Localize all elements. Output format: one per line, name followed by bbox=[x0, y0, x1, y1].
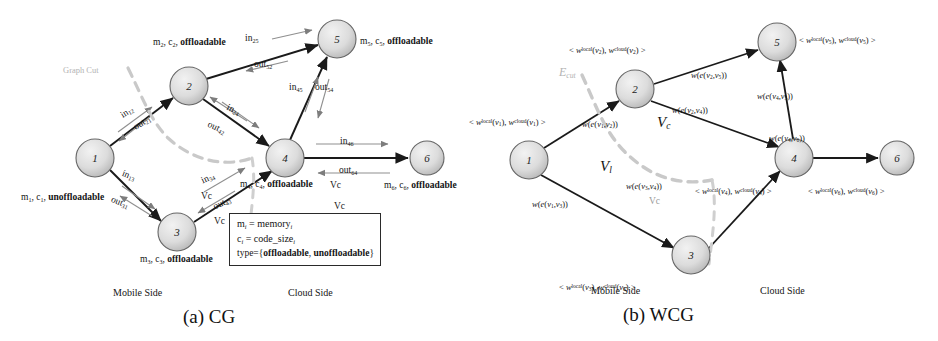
node-1-attributes: m1, c1, unoffloadable bbox=[21, 193, 104, 203]
panel-wcg: 1 2 3 4 5 bbox=[469, 0, 938, 341]
node-1-label: 1 bbox=[526, 154, 532, 166]
ecut-sub: cut bbox=[566, 71, 575, 80]
edge-3-4 bbox=[709, 171, 780, 248]
node-2-attributes: m2, c2, offloadable bbox=[153, 38, 226, 48]
cg-cloud-side-label: Cloud Side bbox=[288, 287, 333, 298]
region-vl-base: V bbox=[600, 158, 609, 174]
wcg-graph-svg: 1 2 3 4 5 bbox=[469, 0, 938, 341]
node-5[interactable]: 5 bbox=[758, 23, 796, 61]
vc-marker-2: Vc bbox=[214, 216, 225, 226]
vc-marker-4: Vc bbox=[334, 201, 345, 211]
panel-cg: 1 2 3 4 5 bbox=[0, 0, 469, 341]
region-vc-sub: c bbox=[666, 120, 670, 131]
cg-legend-box: mi = memoryi ci = code_sizei type={offlo… bbox=[229, 213, 381, 266]
cg-caption: (a) CG bbox=[183, 306, 235, 328]
region-label-vl: Vl bbox=[600, 159, 612, 175]
node-4[interactable]: 4 bbox=[775, 139, 813, 177]
node-2-label: 2 bbox=[632, 83, 638, 95]
node-1[interactable]: 1 bbox=[510, 141, 548, 179]
node-1-weight-label: < wlocal(v1), wcloud(v1) > bbox=[469, 118, 545, 128]
ecut-label: Ecut bbox=[559, 66, 576, 80]
flow-arrow-in25 bbox=[272, 30, 312, 39]
node-3[interactable]: 3 bbox=[158, 213, 196, 251]
edge-weight-v3-v4: w(e(v3,v4)) bbox=[626, 182, 662, 192]
edge-label-in45: in45 bbox=[289, 83, 302, 93]
node-2[interactable]: 2 bbox=[616, 70, 654, 108]
edge-weight-v2-v4: w(e(v2,v4)) bbox=[672, 106, 708, 116]
node-1[interactable]: 1 bbox=[76, 139, 114, 177]
node-4-label: 4 bbox=[282, 152, 288, 164]
cg-mobile-side-label: Mobile Side bbox=[113, 287, 162, 298]
wcg-vc-marker: Vc bbox=[649, 196, 660, 206]
figure-container: 1 2 3 4 5 bbox=[0, 0, 938, 341]
node-1-label: 1 bbox=[92, 152, 98, 164]
node-6-attributes: m6, c6, offloadable bbox=[384, 181, 457, 191]
node-3-label: 3 bbox=[687, 249, 694, 261]
edge-label-in25: in25 bbox=[245, 34, 258, 44]
node-6[interactable]: 6 bbox=[410, 141, 444, 175]
legend-line-type: type={offloadable, unoffloadable} bbox=[237, 246, 374, 261]
node-2-label: 2 bbox=[186, 80, 192, 92]
legend-line-memory: mi = memoryi bbox=[237, 217, 374, 232]
edge-label-out54: out54 bbox=[315, 83, 333, 93]
edge-weight-v4-v5: w(e(v4,v5)) bbox=[757, 92, 793, 102]
vc-marker-1: Vc bbox=[201, 191, 212, 201]
node-5-attributes: m5, c5, offloadable bbox=[360, 37, 433, 47]
edge-label-out64: out64 bbox=[339, 166, 357, 176]
cg-graph-svg: 1 2 3 4 5 bbox=[0, 0, 469, 341]
edge-4-5 bbox=[290, 57, 327, 140]
edge-weight-v1-v2: w(e(v1,v2)) bbox=[582, 120, 618, 130]
node-2[interactable]: 2 bbox=[170, 67, 208, 105]
node-6-label: 6 bbox=[894, 152, 900, 164]
graph-cut-label: Graph Cut bbox=[63, 66, 99, 75]
node-3-label: 3 bbox=[173, 226, 180, 238]
node-2-weight-label: < wlocal(v2), wcloud(v2) > bbox=[569, 46, 645, 56]
vc-marker-3: Vc bbox=[330, 180, 341, 190]
node-3-attributes: m3, c3, offloadable bbox=[140, 255, 213, 265]
node-6[interactable]: 6 bbox=[880, 141, 914, 175]
wcg-caption: (b) WCG bbox=[623, 304, 694, 326]
wcg-cloud-side-label: Cloud Side bbox=[760, 285, 805, 296]
edge-weight-v4-v6: w(e(v4,v6)) bbox=[769, 134, 805, 144]
edge-label-out52: out52 bbox=[254, 60, 272, 70]
node-5-label: 5 bbox=[774, 36, 780, 48]
legend-line-codesize: ci = code_sizei bbox=[237, 232, 374, 247]
node-5[interactable]: 5 bbox=[318, 20, 356, 58]
node-6-weight-label: < wlocal(v6), wcloud(v6) > bbox=[808, 187, 884, 197]
node-4[interactable]: 4 bbox=[266, 139, 304, 177]
node-4-weight-label: < wlocal(v4), wcloud(v4) > bbox=[695, 187, 771, 197]
node-3[interactable]: 3 bbox=[672, 236, 710, 274]
region-label-vc: Vc bbox=[657, 115, 670, 131]
node-6-label: 6 bbox=[424, 152, 430, 164]
edge-label-in46: in46 bbox=[340, 137, 353, 147]
node-5-weight-label: < wlocal(v5), wcloud(v5) > bbox=[799, 36, 875, 46]
node-5-label: 5 bbox=[334, 33, 340, 45]
region-vl-sub: l bbox=[609, 164, 612, 175]
region-vc-base: V bbox=[657, 114, 666, 130]
node-4-label: 4 bbox=[791, 152, 797, 164]
node-4-attributes: m4, c4, offloadable bbox=[240, 180, 313, 190]
cg-edges bbox=[110, 45, 408, 222]
wcg-mobile-side-label: Mobile Side bbox=[591, 285, 640, 296]
edge-weight-v2-v5: w(e(v2,v5)) bbox=[691, 71, 727, 81]
edge-weight-v1-v3: w(e(v1,v3)) bbox=[532, 200, 568, 210]
